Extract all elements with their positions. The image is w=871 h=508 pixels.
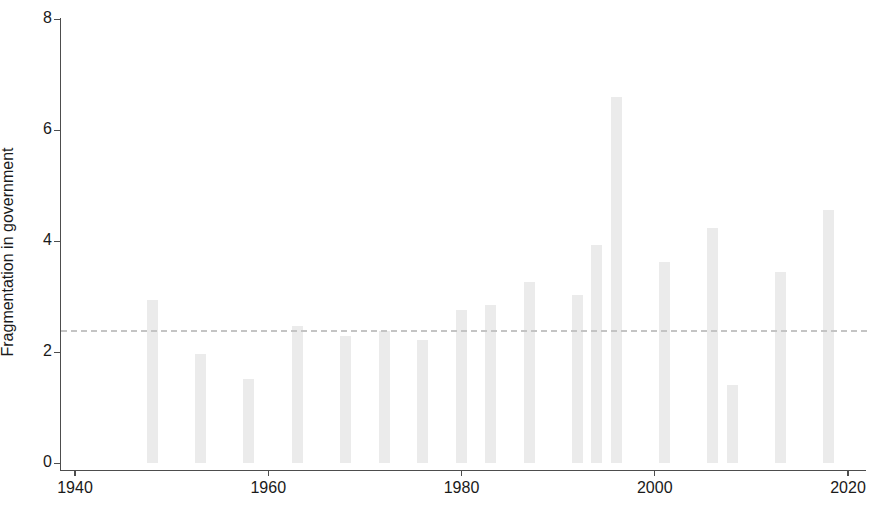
- y-tick-label: 6: [26, 120, 52, 138]
- x-tick-label: 1940: [45, 479, 105, 497]
- bar: [243, 379, 254, 463]
- bar: [340, 336, 351, 463]
- bar: [572, 295, 583, 463]
- y-tick-label: 8: [26, 9, 52, 27]
- y-axis-title-wrapper: Fragmentation in government: [0, 10, 24, 470]
- bar: [659, 262, 670, 463]
- bar: [524, 282, 535, 463]
- x-axis-spine: [60, 470, 866, 471]
- y-tick-label: 0: [26, 453, 52, 471]
- bar: [147, 300, 158, 463]
- y-axis-title: Fragmentation in government: [0, 22, 21, 482]
- bar-chart: Fragmentation in government 02468 194019…: [0, 0, 871, 508]
- x-tick-label: 2000: [625, 479, 685, 497]
- bar: [707, 228, 718, 463]
- x-tick-label: 1960: [238, 479, 298, 497]
- bar: [379, 331, 390, 463]
- x-tick-label: 1980: [432, 479, 492, 497]
- bar: [775, 272, 786, 463]
- bar: [292, 326, 303, 463]
- bar: [456, 310, 467, 463]
- y-tick-label: 2: [26, 342, 52, 360]
- bar: [611, 97, 622, 463]
- x-tick-label: 2020: [818, 479, 871, 497]
- bar: [823, 210, 834, 463]
- bar: [195, 354, 206, 463]
- reference-line: [61, 330, 867, 332]
- y-tick-label: 4: [26, 231, 52, 249]
- bar: [727, 385, 738, 463]
- y-axis-spine: [60, 18, 61, 470]
- bar: [417, 340, 428, 463]
- bar: [591, 245, 602, 463]
